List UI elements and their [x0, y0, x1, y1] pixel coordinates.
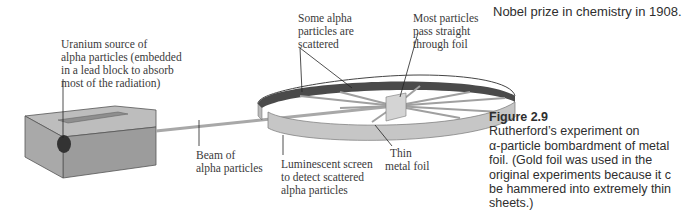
label-line: alpha particles (embedded	[61, 51, 182, 64]
label-line: particles are	[298, 25, 354, 38]
label-line: Luminescent screen	[281, 158, 373, 171]
caption-line: be hammered into extremely thin	[489, 182, 671, 196]
label-line: Beam of	[196, 149, 263, 162]
label-most-pass: Most particles pass straight through foi…	[413, 12, 478, 51]
label-uranium-source: Uranium source of alpha particles (embed…	[61, 38, 182, 90]
label-line: metal foil	[385, 160, 429, 173]
figure-number: Figure 2.9	[489, 110, 671, 124]
body-text-fragment: Nobel prize in chemistry in 1908.	[493, 4, 682, 19]
label-line: Thin	[385, 147, 429, 160]
label-scattered: Some alpha particles are scattered	[298, 12, 354, 51]
caption-line: foil. (Gold foil was used in the	[489, 153, 671, 167]
caption-line: original experiments because it c	[489, 168, 671, 182]
luminescent-screen-ring	[258, 75, 515, 140]
label-line: alpha particles	[281, 184, 373, 197]
label-line: Uranium source of	[61, 38, 182, 51]
label-line: through foil	[413, 38, 478, 51]
label-screen: Luminescent screen to detect scattered a…	[281, 158, 373, 197]
figure-caption: Figure 2.9 Rutherford’s experiment on α-…	[489, 110, 671, 211]
label-line: in a lead block to absorb	[61, 64, 182, 77]
label-line: to detect scattered	[281, 171, 373, 184]
label-line: most of the radiation)	[61, 77, 182, 90]
label-line: scattered	[298, 38, 354, 51]
label-beam: Beam of alpha particles	[196, 149, 263, 175]
label-line: alpha particles	[196, 162, 263, 175]
caption-line: Rutherford’s experiment on	[489, 124, 671, 138]
label-line: pass straight	[413, 25, 478, 38]
uranium-source	[57, 135, 71, 153]
label-foil: Thin metal foil	[385, 147, 429, 173]
thin-metal-foil	[386, 93, 406, 121]
label-line: Most particles	[413, 12, 478, 25]
caption-line: α-particle bombardment of metal	[489, 139, 671, 153]
label-line: Some alpha	[298, 12, 354, 25]
caption-line: sheets.)	[489, 196, 671, 210]
lead-block	[25, 106, 156, 178]
